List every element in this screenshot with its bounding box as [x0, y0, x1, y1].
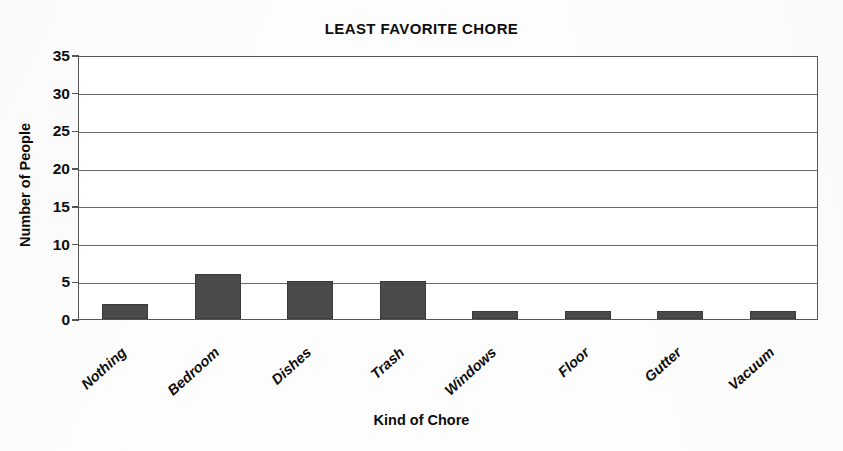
gridline: [79, 283, 817, 284]
y-tick-mark: [72, 168, 79, 170]
bar: [287, 281, 333, 319]
y-axis-title-text: Number of People: [17, 123, 33, 247]
gridline: [79, 132, 817, 133]
bar: [472, 311, 518, 319]
y-tick-mark: [72, 93, 79, 95]
y-tick-mark: [72, 282, 79, 284]
chart-title: LEAST FAVORITE CHORE: [0, 20, 843, 37]
y-tick-mark: [72, 206, 79, 208]
y-tick-label: 15: [22, 199, 70, 215]
gridline: [79, 207, 817, 208]
gridline: [79, 245, 817, 246]
chart-figure: LEAST FAVORITE CHORE Number of People 05…: [0, 0, 843, 451]
y-tick-mark: [72, 55, 79, 57]
y-tick-label: 35: [22, 48, 70, 64]
bar: [380, 281, 426, 319]
gridline: [79, 170, 817, 171]
y-tick-mark: [72, 131, 79, 133]
y-tick-label: 30: [22, 86, 70, 102]
y-tick-mark: [72, 244, 79, 246]
bar: [565, 311, 611, 319]
bar: [102, 304, 148, 319]
y-tick-label: 20: [22, 161, 70, 177]
bar: [750, 311, 796, 319]
gridline: [79, 94, 817, 95]
plot-area: [78, 56, 818, 320]
y-tick-label: 25: [22, 123, 70, 139]
y-tick-mark: [72, 319, 79, 321]
y-tick-label: 10: [22, 237, 70, 253]
x-axis-title: Kind of Chore: [0, 412, 843, 428]
bar: [657, 311, 703, 319]
bar: [195, 274, 241, 319]
y-tick-label: 0: [22, 312, 70, 328]
y-tick-label: 5: [22, 274, 70, 290]
